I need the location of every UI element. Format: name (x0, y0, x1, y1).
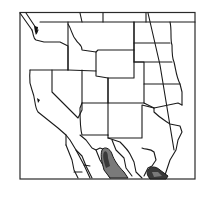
map-canvas (0, 0, 205, 198)
range-map (0, 0, 205, 198)
